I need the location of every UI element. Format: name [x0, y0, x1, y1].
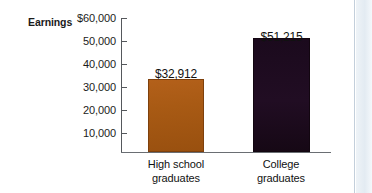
y-tick-label: 30,000 — [0, 82, 116, 93]
bar-value-label-high-school: $32,912 — [148, 68, 204, 80]
x-category-label-college: College graduates — [236, 157, 326, 185]
x-category-label-high-school: High school graduates — [131, 157, 221, 185]
category-label-line: High school — [131, 157, 221, 171]
y-tick-row: 30,000 — [0, 82, 116, 93]
y-tick-label: $60,000 — [0, 13, 116, 24]
category-label-line: graduates — [131, 171, 221, 185]
y-tick-label: 50,000 — [0, 36, 116, 47]
y-tick-label: 10,000 — [0, 128, 116, 139]
y-tick-row: 40,000 — [0, 59, 116, 70]
y-tick-row: 10,000 — [0, 128, 116, 139]
y-axis-line — [121, 18, 122, 153]
y-tick-label: 40,000 — [0, 59, 116, 70]
bar-chart: Earnings $60,000 50,000 40,000 30,000 20… — [0, 0, 372, 193]
y-tick-row: 50,000 — [0, 36, 116, 47]
bar-high-school-graduates[interactable] — [148, 79, 204, 153]
bar-college-graduates[interactable] — [253, 38, 310, 152]
x-axis-line — [121, 152, 331, 153]
bar-value-label-college: $51,215 — [253, 31, 310, 43]
y-tick-label: 20,000 — [0, 105, 116, 116]
y-tick-row: 20,000 — [0, 105, 116, 116]
y-tick-row: $60,000 — [0, 13, 116, 24]
category-label-line: College — [236, 157, 326, 171]
category-label-line: graduates — [236, 171, 326, 185]
